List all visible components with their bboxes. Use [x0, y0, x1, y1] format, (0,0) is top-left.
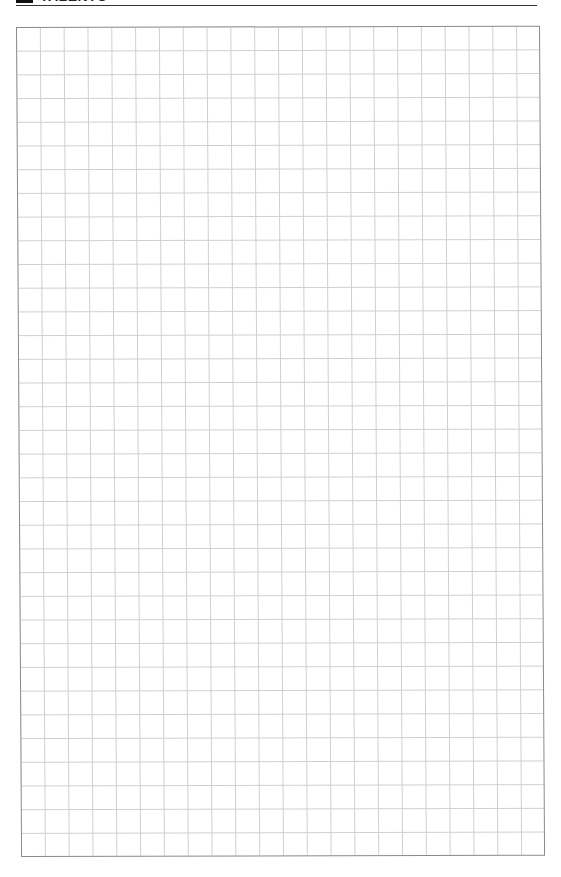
header-marker-block — [16, 0, 33, 3]
header-divider — [16, 5, 537, 6]
graph-paper-grid — [16, 26, 545, 857]
grid-area — [16, 26, 545, 857]
page-title: TALENTS — [40, 0, 107, 3]
